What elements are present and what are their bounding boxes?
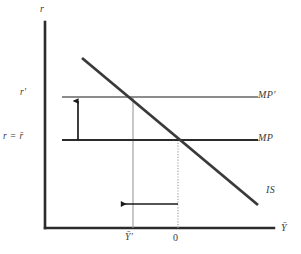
y-tick-label-r-equals-rbar: r = r̄ [3, 132, 24, 142]
x-tick-label-ybar-prime: Ȳ′ [125, 233, 133, 243]
y-axis-label: r [40, 4, 44, 14]
mp-prime-curve-label: MP′ [258, 90, 276, 100]
x-axis-label: Ȳ [281, 223, 287, 233]
x-tick-label-zero: 0 [173, 233, 178, 243]
is-curve-label: IS [266, 185, 275, 195]
diagram-canvas [0, 0, 301, 254]
mp-curve-label: MP [258, 133, 273, 143]
is-mp-diagram: r r′ r = r̄ MP′ MP IS Ȳ′ 0 Ȳ [0, 0, 301, 254]
y-tick-label-r-prime: r′ [20, 88, 27, 98]
is-curve [82, 58, 258, 205]
